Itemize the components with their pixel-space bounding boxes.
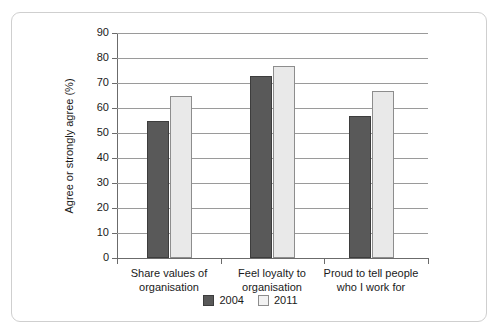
bar-2011-3 [372, 91, 394, 259]
y-tick-label: 60 [97, 102, 109, 113]
y-tick-label: 90 [97, 27, 109, 38]
category-label-line: Proud to tell people [311, 266, 431, 280]
y-tick-mark [112, 83, 117, 84]
category-label-line: Share values of [109, 266, 229, 280]
y-tick-label: 20 [97, 202, 109, 213]
y-tick-mark [112, 33, 117, 34]
chart-figure: 0102030405060708090 Agree or strongly ag… [0, 0, 501, 334]
legend-item-2004: 2004 [203, 294, 243, 306]
x-axis-line [117, 258, 429, 259]
category-label-line: organisation [109, 280, 229, 294]
bar-2011-2 [273, 66, 295, 259]
legend-swatch-2004 [203, 295, 214, 306]
y-axis-title: Agree or strongly agree (%) [62, 33, 76, 259]
legend-item-2011: 2011 [258, 294, 298, 306]
x-tick-mark [117, 258, 118, 264]
x-tick-mark [221, 258, 222, 264]
y-tick-mark [112, 183, 117, 184]
x-tick-mark [428, 258, 429, 264]
y-tick-mark [112, 158, 117, 159]
y-tick-label: 80 [97, 52, 109, 63]
y-tick-label: 70 [97, 77, 109, 88]
y-tick-label: 10 [97, 227, 109, 238]
plot-area [117, 33, 428, 258]
y-tick-mark [112, 208, 117, 209]
gridline [117, 58, 428, 59]
y-tick-mark [112, 58, 117, 59]
category-label-1: Share values oforganisation [109, 266, 229, 294]
chart-legend: 20042011 [0, 294, 501, 306]
category-label-line: who I work for [311, 280, 431, 294]
y-tick-label: 30 [97, 177, 109, 188]
bar-2004-3 [349, 116, 371, 259]
bar-2004-1 [147, 121, 169, 259]
legend-swatch-2011 [258, 295, 269, 306]
category-label-3: Proud to tell peoplewho I work for [311, 266, 431, 294]
y-tick-label: 0 [103, 252, 109, 263]
bar-2004-2 [250, 76, 272, 259]
gridline [117, 33, 428, 34]
legend-label-2011: 2011 [274, 294, 298, 306]
y-tick-label: 40 [97, 152, 109, 163]
bar-2011-1 [170, 96, 192, 259]
y-tick-mark [112, 233, 117, 234]
y-tick-mark [112, 108, 117, 109]
y-axis-tick-labels: 0102030405060708090 [0, 33, 117, 259]
legend-label-2004: 2004 [219, 294, 243, 306]
x-tick-mark [324, 258, 325, 264]
y-tick-mark [112, 133, 117, 134]
y-tick-label: 50 [97, 127, 109, 138]
